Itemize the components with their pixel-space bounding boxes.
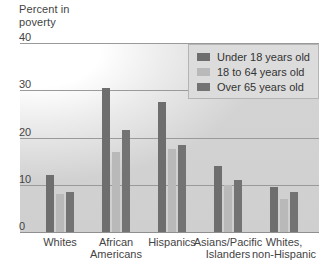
bar <box>234 180 242 232</box>
bar <box>280 199 288 232</box>
bar-group <box>102 0 130 232</box>
bar-group <box>270 0 298 232</box>
bar <box>66 192 74 232</box>
x-axis-label: Whites, non-Hispanic <box>239 236 319 260</box>
x-axis-line <box>20 232 319 233</box>
bar <box>56 194 64 232</box>
bar <box>112 152 120 232</box>
bar <box>46 175 54 232</box>
bar <box>122 130 130 232</box>
bar <box>270 187 278 232</box>
bar <box>214 166 222 232</box>
legend-swatch-over-65 <box>197 83 210 91</box>
bar <box>224 185 232 232</box>
legend: Under 18 years old 18 to 64 years old Ov… <box>188 44 319 99</box>
bar-group <box>46 0 74 232</box>
bars-layer <box>0 0 319 232</box>
bar-group <box>214 0 242 232</box>
bar <box>102 88 110 232</box>
legend-label-under-18: Under 18 years old <box>217 51 310 63</box>
legend-label-18-to-64: 18 to 64 years old <box>217 66 304 78</box>
bar <box>178 145 186 232</box>
bar <box>168 149 176 232</box>
bar-group <box>158 0 186 232</box>
poverty-bar-chart: Percent in poverty 010203040 WhitesAfric… <box>0 0 319 270</box>
legend-item: Under 18 years old <box>189 49 318 64</box>
bar <box>158 102 166 232</box>
legend-item: Over 65 years old <box>189 79 318 94</box>
legend-label-over-65: Over 65 years old <box>217 81 304 93</box>
bar <box>290 192 298 232</box>
legend-item: 18 to 64 years old <box>189 64 318 79</box>
legend-swatch-18-to-64 <box>197 68 210 76</box>
legend-swatch-under-18 <box>197 53 210 61</box>
